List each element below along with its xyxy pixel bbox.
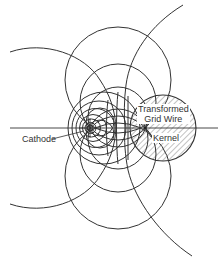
- grid-wire-label-line1: Transformed: [138, 104, 189, 114]
- grid-wire-label: Transformed Grid Wire: [137, 104, 190, 124]
- kernel-dot: [144, 127, 147, 130]
- field-diagram: Cathode Transformed Grid Wire Kernel: [0, 0, 220, 264]
- grid-wire-label-line2: Grid Wire: [138, 114, 189, 124]
- field-lines-svg: [0, 0, 220, 264]
- cathode-label: Cathode: [22, 134, 56, 144]
- kernel-label: Kernel: [152, 133, 180, 143]
